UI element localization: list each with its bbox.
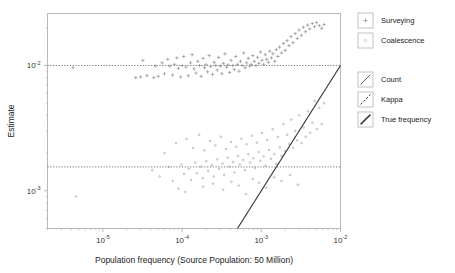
legend-label: Surveying (381, 16, 414, 25)
legend-swatch-box (358, 33, 373, 48)
scatter-plot-figure: 10-510-410-310-2 10-210-3 Population fre… (0, 0, 455, 273)
x-axis-title: Population frequency (Source Population:… (95, 255, 293, 265)
legend-label: Kappa (381, 95, 404, 104)
legend-label: Coalescence (381, 36, 424, 45)
y-axis-title: Estimate (6, 104, 16, 137)
chart-canvas: 10-510-410-310-2 10-210-3 Population fre… (0, 0, 455, 273)
legend-label: True frequency (381, 115, 431, 124)
legend-label: Count (381, 75, 402, 84)
legend-swatch-box (358, 92, 373, 107)
